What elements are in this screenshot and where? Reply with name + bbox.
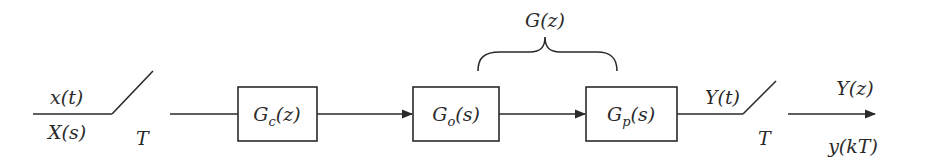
input-signal: x(t) X(s) xyxy=(33,86,112,143)
input-time-label: x(t) xyxy=(50,86,83,108)
input-laplace-label: X(s) xyxy=(46,121,86,143)
output-z-label: Y(z) xyxy=(836,77,873,99)
output-signal: Y(t) xyxy=(677,86,743,114)
switch-blade xyxy=(743,81,776,114)
curly-brace-icon xyxy=(478,37,617,71)
input-sampling-period-label: T xyxy=(136,127,150,149)
zoh-block: Go(s) xyxy=(413,87,499,141)
group-label: G(z) xyxy=(525,9,565,31)
output-time-label: Y(t) xyxy=(705,86,740,108)
controller-block: Gc(z) xyxy=(238,87,317,141)
plant-block: Gp(s) xyxy=(586,87,677,141)
sampled-output: Y(z) y(kT) xyxy=(788,77,878,157)
output-sampling-period-label: T xyxy=(758,127,772,149)
output-sequence-label: y(kT) xyxy=(827,135,878,157)
input-sampler-switch: T xyxy=(112,71,153,149)
switch-blade xyxy=(112,71,153,114)
pulse-transfer-group: G(z) xyxy=(478,9,617,71)
output-sampler-switch: T xyxy=(743,81,776,149)
block-diagram: x(t) X(s) T Gc(z) Go(s) Gp(s) G(z) Y(t) … xyxy=(0,0,933,168)
